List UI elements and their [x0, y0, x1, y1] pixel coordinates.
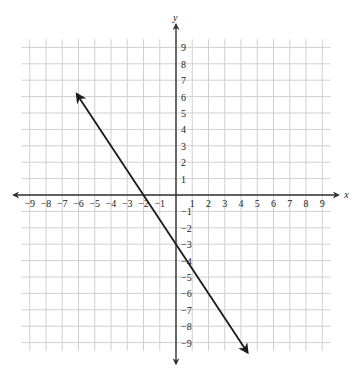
- y-tick-label: 6: [181, 92, 186, 103]
- y-tick-label: 5: [181, 108, 186, 119]
- x-tick-label: −5: [89, 198, 100, 209]
- y-tick-label: 7: [181, 75, 186, 86]
- x-tick-label: 3: [222, 198, 227, 209]
- coordinate-plane: −9−8−7−6−5−4−3−2−1123456789987654321−1−2…: [0, 0, 356, 369]
- x-tick-label: −8: [41, 198, 52, 209]
- x-tick-label: 4: [239, 198, 244, 209]
- y-tick-label: 2: [181, 157, 186, 168]
- x-tick-label: 7: [287, 198, 292, 209]
- y-axis-label: y: [172, 12, 178, 23]
- series-layer: [77, 94, 248, 352]
- y-tick-label: −1: [181, 206, 192, 217]
- y-tick-label: −5: [181, 272, 192, 283]
- y-tick-label: −7: [181, 305, 192, 316]
- y-tick-label: 3: [181, 141, 186, 152]
- x-tick-label: 6: [271, 198, 276, 209]
- y-tick-label: 8: [181, 59, 186, 70]
- x-tick-label: −3: [122, 198, 133, 209]
- y-tick-label: 4: [181, 124, 186, 135]
- x-tick-label: 8: [304, 198, 309, 209]
- y-tick-label: −3: [181, 239, 192, 250]
- series-line: [77, 94, 248, 352]
- y-tick-label: −9: [181, 338, 192, 349]
- y-tick-label: 9: [181, 42, 186, 53]
- x-tick-label: −4: [106, 198, 117, 209]
- x-tick-label: 9: [320, 198, 325, 209]
- x-tick-label: −9: [24, 198, 35, 209]
- y-tick-label: 1: [181, 174, 186, 185]
- y-tick-label: −6: [181, 288, 192, 299]
- y-tick-label: −2: [181, 223, 192, 234]
- x-tick-label: −1: [154, 198, 165, 209]
- x-tick-label: 2: [206, 198, 211, 209]
- x-tick-label: −6: [73, 198, 84, 209]
- y-tick-label: −8: [181, 321, 192, 332]
- x-tick-label: 5: [255, 198, 260, 209]
- x-tick-label: −7: [57, 198, 68, 209]
- x-axis-label: x: [343, 189, 349, 200]
